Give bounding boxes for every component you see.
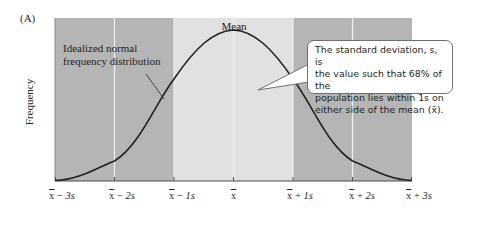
callout-line1: The standard deviation, s, is xyxy=(315,44,447,68)
x-tick-label: x + 1s xyxy=(287,190,313,201)
callout-line4: either side of the mean (x̄). xyxy=(315,104,447,116)
x-tick-label: x + 3s xyxy=(406,190,432,201)
x-tick-label: x − 3s xyxy=(49,190,75,201)
x-tick-label: x + 2s xyxy=(349,190,375,201)
mean-label: Mean xyxy=(221,20,246,32)
x-tick-label: x − 1s xyxy=(169,190,195,201)
callout-line2: the value such that 68% of the xyxy=(315,68,447,92)
x-tick-label: x xyxy=(231,190,236,201)
callout-box: The standard deviation, s, is the value … xyxy=(307,40,453,94)
x-tick-label: x − 2s xyxy=(109,190,135,201)
curve-annotation-line2: frequency distribution xyxy=(63,55,160,68)
curve-annotation: Idealized normal frequency distribution xyxy=(63,42,160,68)
callout-line3: population lies within 1s on xyxy=(315,92,447,104)
curve-annotation-line1: Idealized normal xyxy=(63,42,160,55)
